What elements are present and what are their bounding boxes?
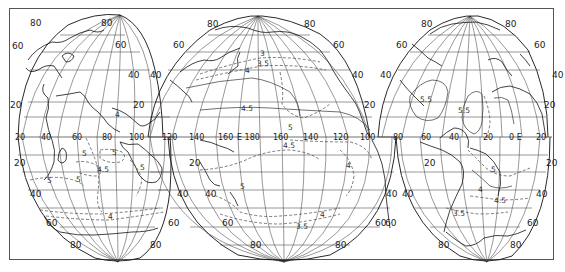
svg-text:5: 5 [112,148,117,157]
svg-text:160: 160 [273,133,288,142]
svg-text:20: 20 [483,133,493,142]
svg-text:5: 5 [47,176,52,185]
svg-text:80: 80 [335,240,347,250]
svg-text:60: 60 [72,133,82,142]
svg-text:100: 100 [129,133,144,142]
svg-text:60: 60 [173,40,185,50]
svg-text:0 E: 0 E [509,133,522,142]
svg-text:5.5: 5.5 [458,106,470,115]
svg-text:100: 100 [360,133,375,142]
svg-text:140: 140 [189,133,204,142]
svg-text:3.5: 3.5 [453,209,465,218]
svg-text:40: 40 [552,70,564,80]
svg-text:120: 120 [162,133,177,142]
equator-longitude-labels: 20 40 60 80 100 120 140 160 E 180 160 14… [10,130,555,142]
svg-text:20: 20 [10,100,22,110]
svg-text:E 180: E 180 [237,133,260,142]
svg-text:5.5: 5.5 [420,95,432,104]
svg-text:4: 4 [320,210,325,219]
svg-text:40: 40 [449,133,459,142]
svg-text:80: 80 [250,240,262,250]
svg-text:40: 40 [128,70,140,80]
svg-text:40: 40 [30,189,42,199]
svg-text:3.5: 3.5 [296,222,308,231]
svg-text:40: 40 [150,70,162,80]
svg-text:4.5: 4.5 [494,196,506,205]
svg-text:40: 40 [536,189,548,199]
svg-text:20: 20 [544,100,556,110]
svg-text:5: 5 [491,165,496,174]
svg-text:4: 4 [115,110,120,119]
svg-text:60: 60 [534,40,546,50]
svg-text:140: 140 [303,133,318,142]
svg-text:80: 80 [101,18,113,28]
svg-text:80: 80 [102,133,112,142]
svg-text:3: 3 [260,49,265,58]
svg-text:20: 20 [15,133,25,142]
svg-text:80: 80 [30,18,42,28]
world-map: 4 5 5 5 4.5 5 5 4 80 80 60 60 40 20 20 2… [0,0,565,272]
svg-text:40: 40 [380,70,392,80]
svg-text:60: 60 [333,40,345,50]
svg-text:20: 20 [133,100,145,110]
svg-text:40: 40 [386,189,398,199]
svg-text:120: 120 [333,133,348,142]
coastlines [170,26,390,228]
svg-text:4: 4 [108,212,113,221]
svg-text:60: 60 [421,133,431,142]
svg-text:40: 40 [352,70,364,80]
svg-text:5: 5 [240,182,245,191]
svg-text:40: 40 [205,189,217,199]
svg-text:20: 20 [546,158,558,168]
svg-text:60: 60 [385,218,397,228]
svg-text:60: 60 [222,218,234,228]
svg-text:40: 40 [41,133,51,142]
svg-text:160: 160 [218,133,233,142]
svg-text:80: 80 [438,240,450,250]
svg-text:80: 80 [505,19,517,29]
svg-text:80: 80 [304,19,316,29]
svg-text:60: 60 [115,40,127,50]
svg-text:40: 40 [402,189,414,199]
svg-text:60: 60 [12,41,24,51]
svg-text:60: 60 [46,218,58,228]
svg-text:60: 60 [396,40,408,50]
svg-text:20: 20 [536,133,546,142]
svg-text:4.5: 4.5 [241,104,253,113]
svg-text:5: 5 [140,163,145,172]
svg-text:4: 4 [245,66,250,75]
isoline-labels: 5.5 5.5 5 4 4.5 3.5 [420,95,506,218]
svg-text:4.5: 4.5 [97,165,109,174]
svg-text:20: 20 [14,158,26,168]
svg-text:80: 80 [421,19,433,29]
svg-text:80: 80 [150,240,162,250]
svg-text:4.5: 4.5 [283,141,295,150]
svg-text:5: 5 [82,149,87,158]
svg-text:80: 80 [393,133,403,142]
svg-text:4: 4 [346,161,351,170]
svg-text:80: 80 [510,240,522,250]
svg-text:60: 60 [168,218,180,228]
svg-text:5: 5 [76,175,81,184]
svg-text:60: 60 [527,218,539,228]
svg-text:80: 80 [70,240,82,250]
svg-text:4: 4 [478,185,483,194]
svg-text:3.5: 3.5 [257,59,269,68]
svg-text:20: 20 [424,158,436,168]
svg-text:20: 20 [189,158,201,168]
svg-text:80: 80 [207,19,219,29]
svg-text:20: 20 [364,100,376,110]
